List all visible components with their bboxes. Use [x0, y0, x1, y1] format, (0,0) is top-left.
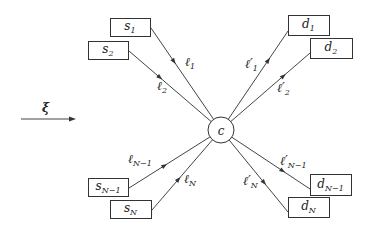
link-sN: ℓN [152, 140, 213, 210]
link-dN: ℓ′N [229, 140, 288, 212]
link-label: ℓ′2 [277, 81, 290, 97]
network-diagram: ξ ℓ1ℓ2ℓN−1ℓNℓ′1ℓ′2ℓ′N−1ℓ′N s1s2sN−1sNd1d… [0, 0, 371, 229]
arrow-head-icon [279, 167, 285, 172]
link-line [152, 140, 213, 210]
source-node-sN: sN [111, 201, 152, 219]
source-node-s1: s1 [111, 19, 151, 37]
link-label: ℓ1 [185, 55, 195, 71]
link-line [231, 53, 310, 122]
link-line [228, 31, 288, 119]
source-node-sN-1: sN−1 [89, 179, 129, 197]
link-line [229, 140, 288, 212]
link-label: ℓ2 [157, 79, 167, 95]
center-node-label: c [218, 124, 225, 138]
arrow-head-icon [161, 164, 167, 169]
link-label: ℓ′1 [245, 57, 258, 73]
link-label: ℓ′N [243, 174, 259, 190]
flow-indicator: ξ [21, 101, 76, 122]
flow-arrow-head-icon [69, 117, 76, 122]
link-label: ℓN−1 [128, 152, 152, 168]
center-node: c [208, 117, 234, 143]
source-node-s2: s2 [89, 42, 129, 60]
link-d1: ℓ′1 [228, 31, 288, 119]
link-sN-1: ℓN−1 [128, 137, 210, 188]
link-d2: ℓ′2 [231, 53, 310, 122]
link-s2: ℓ2 [129, 51, 211, 122]
link-line [129, 51, 211, 122]
link-label: ℓN [184, 172, 197, 188]
arrow-head-icon [265, 58, 270, 64]
destination-node-d2: d2 [311, 39, 353, 59]
link-line [151, 28, 214, 119]
flow-label: ξ [42, 101, 50, 115]
destination-node-d1: d1 [289, 16, 330, 36]
destination-node-dN-1: dN−1 [311, 175, 352, 196]
link-label: ℓ′N−1 [280, 154, 307, 170]
link-s1: ℓ1 [151, 28, 214, 119]
destination-node-dN: dN [289, 198, 330, 218]
arrow-head-icon [170, 58, 175, 64]
